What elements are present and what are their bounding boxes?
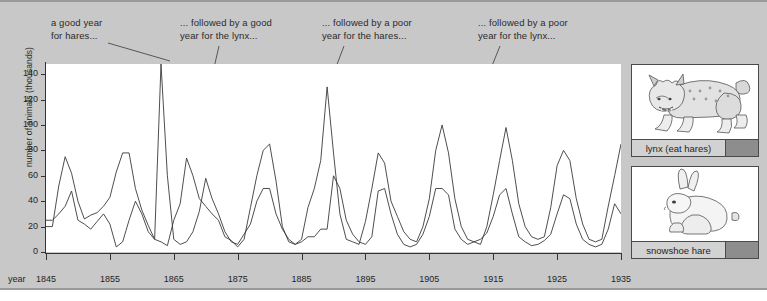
y-tick-mark	[41, 176, 46, 177]
annotation-line-2: year for the lynx...	[180, 29, 272, 42]
x-tick-mark	[110, 254, 111, 260]
x-axis-label: year	[8, 274, 26, 284]
x-tick-label: 1925	[547, 274, 567, 284]
y-tick-mark	[41, 74, 46, 75]
x-tick-label: 1905	[419, 274, 439, 284]
x-tick-mark	[174, 254, 175, 260]
annotation-line-1: ... followed by a poor	[478, 16, 568, 29]
y-tick-label: 40	[0, 195, 38, 205]
y-tick-label: 80	[0, 144, 38, 154]
annotation-good-year-lynx: ... followed by a good year for the lynx…	[180, 16, 272, 42]
hare-illustration-icon	[632, 167, 758, 241]
x-axis-line	[45, 253, 622, 254]
x-tick-label: 1895	[355, 274, 375, 284]
legend-card-lynx[interactable]: lynx (eat hares)	[631, 64, 759, 157]
annotation-line-1: ... followed by a poor	[322, 16, 412, 29]
y-tick-mark	[41, 201, 46, 202]
x-tick-mark	[238, 254, 239, 260]
legend-foot-hare: snowshoe hare	[632, 241, 758, 258]
annotation-line-2: for hares...	[51, 29, 102, 42]
y-tick-label: 120	[0, 94, 38, 104]
y-tick-label: 100	[0, 119, 38, 129]
y-tick-label: 0	[0, 246, 38, 256]
bottom-strip	[0, 290, 767, 301]
x-tick-mark	[557, 254, 558, 260]
x-tick-mark	[365, 254, 366, 260]
x-tick-mark	[46, 254, 47, 260]
x-tick-mark	[493, 254, 494, 260]
y-tick-mark	[41, 125, 46, 126]
x-tick-label: 1885	[292, 274, 312, 284]
x-tick-mark	[429, 254, 430, 260]
plot-wrapper	[46, 64, 621, 252]
legend-foot-lynx: lynx (eat hares)	[632, 139, 758, 156]
x-tick-mark	[621, 254, 622, 260]
y-tick-mark	[41, 227, 46, 228]
figure-panel: a good year for hares... ... followed by…	[0, 0, 767, 290]
legend-label-lynx: lynx (eat hares)	[632, 140, 726, 156]
y-axis-label: number of animals (thousands)	[24, 22, 34, 192]
series-canvas	[46, 64, 621, 252]
legend-card-hare[interactable]: snowshoe hare	[631, 166, 759, 259]
y-tick-mark	[41, 150, 46, 151]
legend-swatch-hare	[726, 242, 758, 258]
annotation-line-2: year for the lynx...	[478, 29, 568, 42]
y-tick-label: 60	[0, 170, 38, 180]
y-axis-line	[45, 62, 46, 254]
x-tick-mark	[302, 254, 303, 260]
lynx-illustration-icon	[632, 65, 758, 139]
annotation-line-2: year for the hares...	[322, 29, 412, 42]
legend-swatch-lynx	[726, 140, 758, 156]
x-tick-label: 1875	[228, 274, 248, 284]
annotation-line-1: a good year	[51, 16, 102, 29]
y-tick-mark	[41, 100, 46, 101]
legend: lynx (eat hares)	[631, 64, 759, 268]
y-tick-label: 20	[0, 221, 38, 231]
x-tick-label: 1855	[100, 274, 120, 284]
x-tick-label: 1935	[611, 274, 631, 284]
x-tick-label: 1915	[483, 274, 503, 284]
y-tick-mark	[41, 252, 46, 253]
x-tick-label: 1865	[164, 274, 184, 284]
annotation-poor-year-hares: ... followed by a poor year for the hare…	[322, 16, 412, 42]
x-tick-label: 1845	[36, 274, 56, 284]
series-line-snowshoe-hare	[46, 87, 621, 247]
y-tick-label: 140	[0, 68, 38, 78]
annotation-good-year-hares: a good year for hares...	[51, 16, 102, 42]
annotation-poor-year-lynx: ... followed by a poor year for the lynx…	[478, 16, 568, 42]
legend-label-hare: snowshoe hare	[632, 242, 726, 258]
annotation-line-1: ... followed by a good	[180, 16, 272, 29]
